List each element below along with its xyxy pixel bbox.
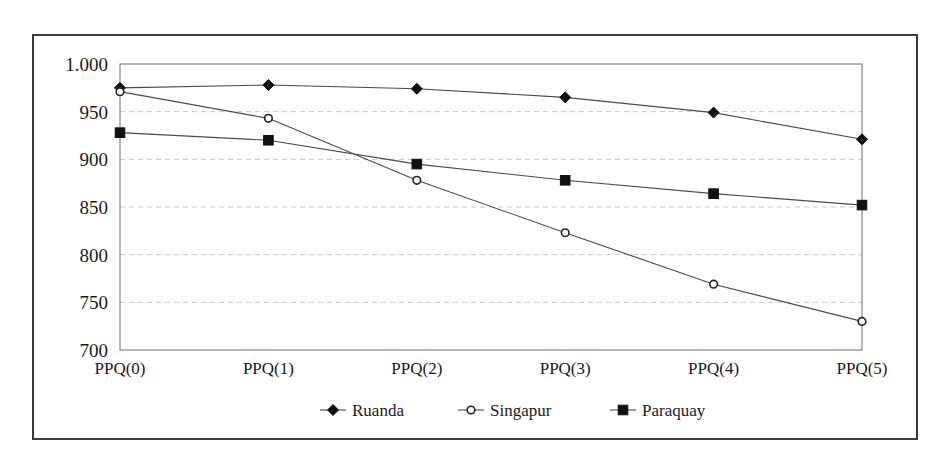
data-point-ruanda-1 [263,79,274,90]
legend-marker-singapur [467,406,475,414]
data-point-paraquay-1 [264,135,274,145]
x-tick-label: PPQ(1) [243,359,294,378]
data-point-singapur-1 [265,115,273,123]
x-tick-label: PPQ(5) [836,359,887,378]
legend-label-singapur: Singapur [490,401,552,420]
series-line-paraquay [120,133,862,205]
y-tick-label: 850 [80,197,109,218]
legend-label-ruanda: Ruanda [352,401,404,420]
data-point-paraquay-4 [709,189,719,199]
data-point-paraquay-3 [560,176,570,186]
legend-entry-singapur[interactable]: Singapur [458,401,552,420]
legend-entry-ruanda[interactable]: Ruanda [320,401,404,420]
x-tick-label: PPQ(2) [391,359,442,378]
x-axis-ticks: PPQ(0)PPQ(1)PPQ(2)PPQ(3)PPQ(4)PPQ(5) [94,359,887,378]
y-tick-label: 1.000 [65,54,108,75]
y-tick-label: 900 [80,149,109,170]
data-point-ruanda-4 [708,107,719,118]
x-tick-label: PPQ(3) [540,359,591,378]
data-point-paraquay-5 [857,200,867,210]
legend-marker-ruanda [328,405,339,416]
y-tick-label: 750 [80,292,109,313]
data-point-singapur-4 [710,280,718,288]
series-paraquay [115,128,867,210]
y-tick-label: 700 [80,340,109,361]
legend-entry-paraquay[interactable]: Paraquay [610,401,706,420]
data-point-singapur-5 [858,318,866,326]
data-point-singapur-0 [116,88,124,96]
y-tick-label: 950 [80,102,109,123]
legend: RuandaSingapurParaquay [320,401,706,420]
series-group [115,79,868,325]
line-chart-svg: 1.000950900850800750700PPQ(0)PPQ(1)PPQ(2… [34,36,916,438]
y-axis-ticks: 1.000950900850800750700 [65,54,108,361]
legend-marker-paraquay [618,405,628,415]
data-point-paraquay-0 [115,128,125,138]
data-point-singapur-3 [561,229,569,237]
x-tick-label: PPQ(4) [688,359,739,378]
data-point-ruanda-5 [857,134,868,145]
y-tick-label: 800 [80,245,109,266]
data-point-singapur-2 [413,177,421,185]
chart-figure: 1.000950900850800750700PPQ(0)PPQ(1)PPQ(2… [32,34,918,440]
chart-canvas: 1.000950900850800750700PPQ(0)PPQ(1)PPQ(2… [34,36,916,438]
data-point-ruanda-2 [411,83,422,94]
x-tick-label: PPQ(0) [94,359,145,378]
data-point-paraquay-2 [412,159,422,169]
data-point-ruanda-3 [560,92,571,103]
legend-label-paraquay: Paraquay [642,401,706,420]
